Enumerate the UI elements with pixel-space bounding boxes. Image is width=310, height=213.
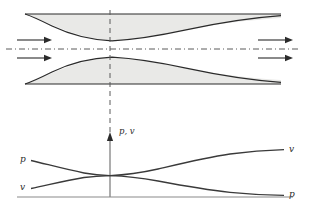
inlet-flow-arrow-upper — [17, 37, 52, 43]
right-label-pressure: p — [289, 190, 295, 199]
pressure-velocity-chart — [17, 132, 293, 197]
axis-label-p-v: p, v — [119, 127, 135, 136]
upper-channel-diagram — [6, 10, 300, 133]
outlet-flow-arrow-upper — [258, 37, 293, 43]
curve-velocity — [31, 150, 284, 189]
inlet-flow-arrow-lower — [17, 55, 52, 61]
vertical-axis-arrowhead — [107, 132, 113, 141]
right-label-velocity: v — [289, 145, 294, 154]
flow-pressure-velocity-figure — [0, 0, 310, 213]
outlet-flow-arrow-lower — [258, 55, 293, 61]
curve-pressure — [31, 161, 284, 196]
left-label-pressure: p — [20, 155, 26, 164]
left-label-velocity: v — [20, 183, 25, 192]
